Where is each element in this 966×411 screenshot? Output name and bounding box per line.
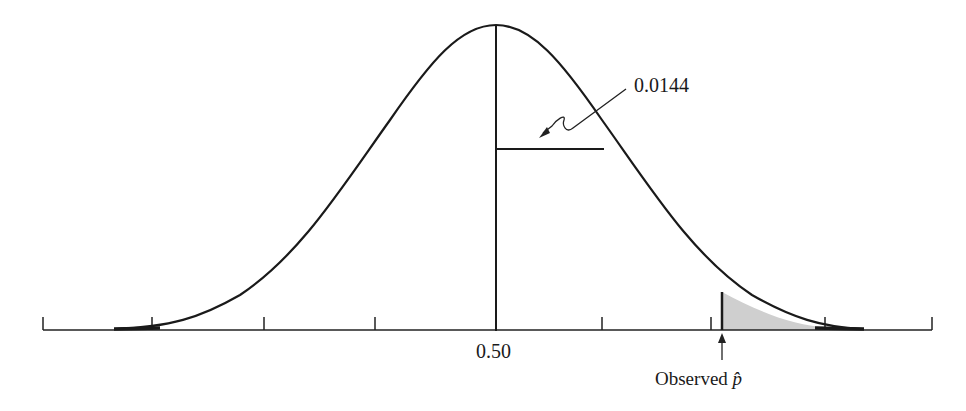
left-tail	[114, 328, 160, 329]
observed-arrowhead-icon	[718, 333, 726, 343]
observed-text: Observed	[655, 368, 733, 389]
p-hat-symbol: p̂	[733, 368, 743, 389]
sd-annotation-label: 0.0144	[634, 74, 689, 97]
shaded-tail-region	[722, 292, 862, 330]
axis-center-label: 0.50	[476, 340, 511, 363]
observed-label: Observed p̂	[655, 368, 742, 390]
right-tail	[815, 328, 864, 329]
bell-curve	[114, 25, 862, 329]
